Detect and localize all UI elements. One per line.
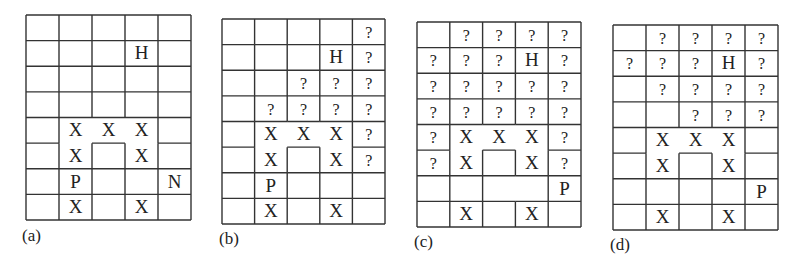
obstacle-mark: X [722, 206, 736, 227]
grid-b: ?H????????XXX?XX?PXX [221, 18, 386, 225]
unknown-cell-mark: ? [626, 55, 633, 72]
home-mark: H [329, 46, 343, 67]
unknown-cell-mark: ? [333, 75, 340, 92]
obstacle-mark: X [329, 200, 343, 221]
unknown-cell-mark: ? [495, 104, 502, 121]
obstacle-mark: X [264, 123, 278, 144]
unknown-cell-mark: ? [758, 55, 765, 72]
unknown-cell-mark: ? [365, 49, 372, 66]
unknown-cell-mark: ? [659, 30, 666, 47]
obstacle-mark: X [69, 119, 83, 140]
obstacle-mark: X [459, 126, 473, 147]
player-mark: P [559, 178, 570, 199]
unknown-cell-mark: ? [561, 27, 568, 44]
unknown-cell-mark: ? [430, 78, 437, 95]
obstacle-mark: X [135, 196, 149, 217]
unknown-cell-mark: ? [561, 52, 568, 69]
unknown-cell-mark: ? [365, 101, 372, 118]
unknown-cell-mark: ? [333, 101, 340, 118]
unknown-cell-mark: ? [495, 52, 502, 69]
unknown-cell-mark: ? [430, 155, 437, 172]
obstacle-mark: X [459, 203, 473, 224]
unknown-cell-mark: ? [463, 27, 470, 44]
obstacle-mark: X [525, 203, 539, 224]
cell-mark: N [168, 171, 182, 192]
obstacle-mark: X [689, 129, 703, 150]
obstacle-mark: X [264, 149, 278, 170]
unknown-cell-mark: ? [659, 55, 666, 72]
obstacle-mark: X [135, 145, 149, 166]
obstacle-mark: X [656, 129, 670, 150]
grid-d: ???????H????????XXXXXPXX [612, 24, 779, 231]
unknown-cell-mark: ? [430, 104, 437, 121]
unknown-cell-mark: ? [692, 81, 699, 98]
unknown-cell-mark: ? [463, 104, 470, 121]
grid-a: HXXXXXPNXX [25, 14, 192, 221]
unknown-cell-mark: ? [561, 129, 568, 146]
unknown-cell-mark: ? [365, 152, 372, 169]
obstacle-mark: X [135, 119, 149, 140]
player-mark: P [70, 171, 81, 192]
unknown-cell-mark: ? [463, 78, 470, 95]
unknown-cell-mark: ? [758, 81, 765, 98]
unknown-cell-mark: ? [267, 101, 274, 118]
obstacle-mark: X [525, 152, 539, 173]
home-mark: H [135, 42, 149, 63]
unknown-cell-mark: ? [692, 55, 699, 72]
unknown-cell-mark: ? [365, 24, 372, 41]
unknown-cell-mark: ? [561, 155, 568, 172]
caption-a: (a) [22, 226, 41, 246]
obstacle-mark: X [492, 126, 506, 147]
unknown-cell-mark: ? [659, 81, 666, 98]
unknown-cell-mark: ? [692, 107, 699, 124]
unknown-cell-mark: ? [528, 104, 535, 121]
unknown-cell-mark: ? [365, 126, 372, 143]
unknown-cell-mark: ? [430, 52, 437, 69]
unknown-cell-mark: ? [725, 30, 732, 47]
obstacle-mark: X [329, 123, 343, 144]
unknown-cell-mark: ? [561, 104, 568, 121]
unknown-cell-mark: ? [365, 75, 372, 92]
caption-b: (b) [219, 229, 239, 249]
home-mark: H [722, 52, 736, 73]
unknown-cell-mark: ? [725, 81, 732, 98]
unknown-cell-mark: ? [528, 78, 535, 95]
caption-c: (c) [414, 232, 433, 252]
unknown-cell-mark: ? [692, 30, 699, 47]
player-mark: P [756, 181, 767, 202]
obstacle-mark: X [329, 149, 343, 170]
unknown-cell-mark: ? [758, 30, 765, 47]
unknown-cell-mark: ? [528, 27, 535, 44]
obstacle-mark: X [69, 145, 83, 166]
home-mark: H [525, 49, 539, 70]
unknown-cell-mark: ? [430, 129, 437, 146]
unknown-cell-mark: ? [463, 52, 470, 69]
unknown-cell-mark: ? [495, 27, 502, 44]
obstacle-mark: X [297, 123, 311, 144]
player-mark: P [266, 175, 277, 196]
unknown-cell-mark: ? [725, 107, 732, 124]
obstacle-mark: X [102, 119, 116, 140]
unknown-cell-mark: ? [300, 101, 307, 118]
obstacle-mark: X [69, 196, 83, 217]
obstacle-mark: X [722, 155, 736, 176]
obstacle-mark: X [656, 155, 670, 176]
unknown-cell-mark: ? [758, 107, 765, 124]
caption-d: (d) [610, 235, 630, 255]
unknown-cell-mark: ? [300, 75, 307, 92]
unknown-cell-mark: ? [561, 78, 568, 95]
obstacle-mark: X [525, 126, 539, 147]
obstacle-mark: X [656, 206, 670, 227]
unknown-cell-mark: ? [495, 78, 502, 95]
obstacle-mark: X [264, 200, 278, 221]
grid-c: ???????H????????????XXX??XX?PXX [416, 21, 582, 228]
obstacle-mark: X [722, 129, 736, 150]
obstacle-mark: X [459, 152, 473, 173]
